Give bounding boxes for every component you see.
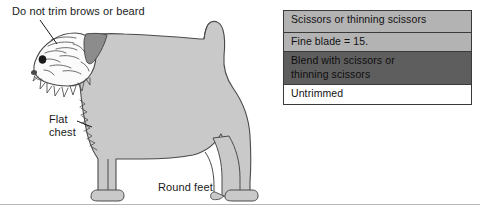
legend-row-scissors: Scissors or thinning scissors: [284, 11, 471, 33]
figure-bottom-rule: [0, 204, 480, 205]
dog-body-group: [79, 21, 258, 201]
annotation-round-feet: Round feet: [158, 181, 213, 194]
leader-line-brows: [40, 20, 57, 44]
dog-illustration: [0, 0, 290, 210]
dog-front-foot-near: [91, 190, 124, 201]
legend-label-scissors: Scissors or thinning scissors: [291, 13, 471, 27]
dog-nose: [31, 70, 37, 75]
legend-row-fine-blade: Fine blade = 15.: [284, 33, 471, 52]
annotation-flat-chest: Flat chest: [49, 113, 76, 138]
legend-label-fine-blade: Fine blade = 15.: [291, 35, 471, 49]
figure-canvas: Do not trim brows or beard Flat chest Ro…: [0, 0, 480, 216]
legend-row-untrimmed: Untrimmed: [284, 85, 471, 104]
legend-label-untrimmed: Untrimmed: [291, 87, 471, 101]
annotation-do-not-trim-brows: Do not trim brows or beard: [12, 5, 145, 18]
legend-table: Scissors or thinning scissors Fine blade…: [283, 10, 472, 105]
legend-label-blend: Blend with scissors or thinning scissors: [291, 54, 471, 81]
legend-row-blend: Blend with scissors or thinning scissors: [284, 52, 471, 85]
dog-hind-foot-near: [225, 190, 258, 201]
dog-eye: [39, 56, 46, 64]
